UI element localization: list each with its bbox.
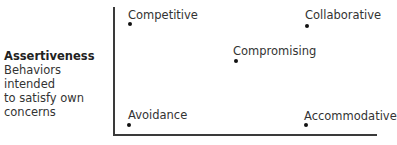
assertiveness-desc-line-1: Behaviors intended [4,63,108,91]
point-marker-accommodative [304,123,308,127]
point-marker-avoidance [127,123,131,127]
point-marker-compromising [234,59,238,63]
point-marker-competitive [128,22,132,26]
point-label-competitive: Competitive [128,9,198,22]
point-marker-collaborative [305,24,309,28]
point-label-avoidance: Avoidance [128,109,187,122]
assertiveness-desc-line-3: concerns [4,105,108,119]
point-label-accommodative: Accommodative [304,110,397,123]
vertical-axis-line [113,7,115,135]
point-label-collaborative: Collaborative [305,9,381,22]
assertiveness-axis-label: Assertiveness Behaviors intended to sati… [4,49,108,119]
point-label-compromising: Compromising [233,45,316,58]
assertiveness-title: Assertiveness [4,49,108,63]
horizontal-axis-line [113,134,377,136]
assertiveness-desc-line-2: to satisfy own [4,91,108,105]
